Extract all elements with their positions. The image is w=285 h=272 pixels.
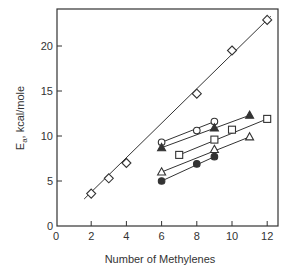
filled-circle-marker-icon — [158, 178, 165, 185]
open-diamond-marker-icon — [87, 189, 96, 198]
y-axis-label-symbol: E — [14, 143, 26, 150]
x-axis-ticks: 024681012 — [53, 221, 273, 242]
filled-circle-marker-icon — [194, 161, 201, 168]
y-axis-label: Ea, kcal/mole — [14, 86, 29, 150]
open-square-marker-icon — [211, 136, 218, 143]
open-diamond-fit-line — [84, 16, 271, 199]
x-tick-label: 0 — [53, 230, 59, 242]
y-tick-label: 15 — [41, 85, 53, 97]
y-axis-ticks: 05101520 — [41, 40, 62, 232]
open-circle-fit-line — [162, 122, 215, 143]
open-triangle-marker-icon — [246, 133, 254, 140]
x-tick-label: 4 — [123, 230, 129, 242]
x-tick-label: 12 — [261, 230, 273, 242]
y-tick-label: 10 — [41, 130, 53, 142]
open-square-marker-icon — [176, 151, 183, 158]
open-triangle-fit-line — [162, 137, 250, 172]
y-tick-label: 0 — [47, 220, 53, 232]
x-tick-label: 10 — [226, 230, 238, 242]
x-tick-label: 2 — [88, 230, 94, 242]
open-square-fit-line — [179, 119, 267, 155]
open-square-marker-icon — [264, 115, 271, 122]
y-axis-label-units: , kcal/mole — [14, 86, 26, 139]
x-axis-label: Number of Methylenes — [105, 253, 216, 265]
x-tick-label: 6 — [159, 230, 165, 242]
chart: 024681012 05101520 Number of Methylenes … — [0, 0, 285, 272]
open-diamond-marker-icon — [104, 174, 113, 183]
y-tick-label: 20 — [41, 40, 53, 52]
filled-circle-marker-icon — [211, 153, 218, 160]
svg-text:Ea, kcal/mole: Ea, kcal/mole — [14, 86, 29, 150]
filled-triangle-marker-icon — [246, 111, 254, 118]
open-triangle-marker-icon — [210, 145, 218, 152]
open-diamond-marker-icon — [192, 89, 201, 98]
fit-lines — [84, 16, 271, 199]
open-diamond-marker-icon — [122, 159, 131, 168]
open-square-marker-icon — [229, 126, 236, 133]
y-tick-label: 5 — [47, 175, 53, 187]
open-circle-marker-icon — [194, 127, 201, 134]
open-diamond-marker-icon — [228, 46, 237, 55]
x-tick-label: 8 — [194, 230, 200, 242]
